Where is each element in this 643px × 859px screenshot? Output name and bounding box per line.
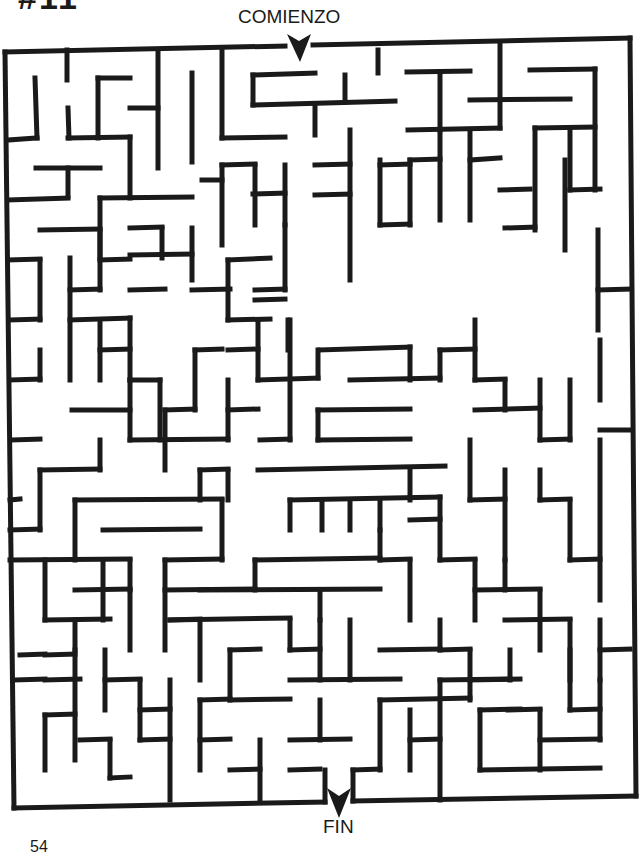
maze-wall	[600, 649, 630, 650]
maze-wall	[230, 699, 290, 700]
maze-wall	[290, 739, 350, 740]
maze-wall	[195, 349, 222, 350]
maze-wall	[170, 618, 290, 620]
maze-wall	[315, 164, 350, 165]
maze-wall	[140, 709, 170, 710]
maze-wall	[222, 137, 285, 138]
maze-wall	[40, 469, 100, 470]
maze-wall	[598, 289, 630, 290]
maze-wall	[253, 193, 285, 194]
maze-wall	[10, 559, 130, 560]
maze-wall	[228, 319, 270, 320]
maze-wall	[165, 409, 195, 410]
maze-wall	[505, 619, 570, 620]
maze-wall	[253, 73, 315, 75]
maze-wall	[192, 289, 230, 290]
maze-wall	[290, 679, 400, 680]
maze-wall	[228, 349, 258, 350]
maze-wall	[255, 558, 380, 560]
maze-wall	[318, 409, 410, 410]
maze-wall	[68, 108, 69, 138]
maze-wall	[508, 709, 540, 710]
maze-wall	[258, 466, 445, 470]
maze-wall	[165, 559, 222, 560]
maze-wall	[130, 227, 162, 228]
maze-wall	[440, 559, 475, 560]
maze-wall	[105, 679, 140, 680]
maze-wall	[570, 189, 600, 190]
maze-wall	[35, 78, 37, 138]
maze-wall	[255, 289, 285, 290]
maze-wall	[353, 769, 380, 770]
maze-wall	[530, 69, 595, 70]
maze-wall	[230, 649, 260, 650]
maze-wall	[253, 101, 395, 105]
maze-wall	[8, 259, 40, 260]
maze-wall	[440, 679, 510, 680]
maze-wall	[200, 589, 380, 590]
maze-wall	[222, 164, 255, 165]
maze-wall	[353, 796, 636, 801]
maze-wall	[380, 649, 440, 650]
maze-wall	[440, 649, 470, 650]
maze-wall	[260, 439, 290, 440]
maze-wall	[315, 194, 350, 195]
maze-wall	[380, 224, 410, 225]
maze-wall	[380, 559, 410, 560]
maze-wall	[318, 439, 410, 440]
maze-wall	[230, 769, 260, 770]
maze-wall	[290, 649, 320, 650]
maze-wall	[440, 349, 475, 350]
maze-wall	[10, 529, 40, 530]
start-arrow-icon	[287, 34, 311, 62]
maze-wall	[12, 439, 40, 440]
maze-wall	[410, 519, 440, 520]
maze-wall	[313, 38, 630, 45]
maze-wall	[8, 198, 68, 200]
maze-wall	[475, 379, 505, 380]
maze-wall	[70, 289, 100, 290]
end-label: FIN	[323, 816, 354, 838]
maze-wall	[290, 769, 320, 770]
maze-wall	[500, 189, 530, 190]
maze-wall	[410, 159, 440, 160]
maze-wall	[350, 378, 440, 380]
maze-wall	[570, 709, 600, 710]
maze-wall	[475, 408, 540, 410]
maze-wall	[45, 714, 75, 715]
maze-wall	[5, 46, 285, 52]
maze-wall	[100, 197, 192, 198]
maze-wall	[470, 499, 505, 500]
maze-wall	[570, 559, 600, 560]
maze-wall	[8, 138, 37, 140]
maze-wall	[320, 347, 410, 350]
maze-wall	[290, 497, 440, 500]
maze-wall	[255, 299, 285, 300]
maze-wall	[100, 349, 130, 350]
maze-wall	[380, 164, 410, 165]
maze-wall	[20, 654, 45, 655]
maze-wall	[630, 38, 636, 796]
maze-wall	[540, 439, 570, 440]
maze-wall	[505, 227, 535, 228]
maze-wall	[228, 258, 270, 260]
maze-wall	[200, 739, 230, 740]
maze-wall	[103, 529, 200, 530]
maze-wall	[15, 679, 45, 680]
maze-wall	[470, 158, 500, 160]
maze-wall	[410, 739, 440, 740]
maze-wall	[5, 52, 14, 808]
maze-wall	[540, 499, 570, 500]
maze-wall	[10, 319, 40, 320]
maze-wall	[228, 409, 258, 410]
maze-wall	[470, 99, 570, 100]
maze-wall	[130, 254, 192, 255]
page-number: 54	[30, 838, 48, 856]
maze-wall	[200, 699, 230, 700]
maze-wall	[14, 802, 325, 808]
maze-wall	[80, 739, 110, 740]
maze-wall	[408, 128, 500, 130]
maze-wall	[140, 739, 170, 740]
maze	[0, 0, 643, 859]
maze-wall	[10, 379, 40, 380]
